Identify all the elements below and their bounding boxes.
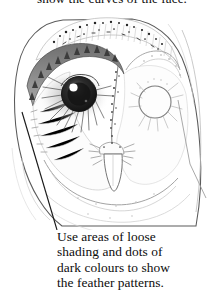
barn-owl-head-drawing [0, 8, 224, 230]
bottom-caption-line-1: Use areas of loose [57, 229, 222, 244]
left-eye-catchlight-core [70, 84, 74, 88]
illustration-page: show the curves of the face. [0, 0, 224, 293]
bottom-caption-line-4: the feather patterns. [57, 275, 222, 290]
bottom-caption-line-2: shading and dots of [57, 244, 222, 259]
bottom-caption-line-3: dark colours to show [57, 260, 222, 275]
top-caption-text: show the curves of the face. [0, 0, 224, 6]
left-eye-secondary-glint [85, 100, 88, 103]
bottom-caption: Use areas of loose shading and dots of d… [57, 229, 222, 291]
